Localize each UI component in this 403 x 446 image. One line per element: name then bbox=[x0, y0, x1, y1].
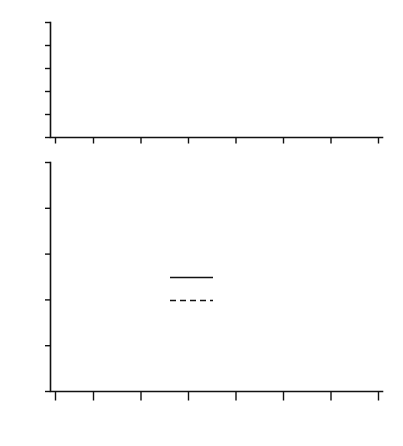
top-panel bbox=[45, 23, 383, 144]
legend-item-dashed bbox=[0, 0, 213, 301]
figure-svg bbox=[0, 0, 403, 446]
top-panel-axes bbox=[51, 23, 383, 138]
bottom-panel-axes bbox=[51, 163, 383, 392]
top-panel-y-ticks bbox=[45, 23, 51, 138]
legend bbox=[0, 0, 213, 301]
top-cutoff-artifact bbox=[150, 1, 154, 10]
figure-container bbox=[0, 0, 403, 446]
bottom-panel bbox=[0, 0, 383, 401]
bottom-panel-y-ticks bbox=[45, 163, 51, 392]
bottom-panel-x-major-ticks bbox=[56, 392, 379, 401]
top-panel-x-ticks bbox=[56, 138, 379, 144]
legend-item-solid bbox=[0, 0, 213, 278]
